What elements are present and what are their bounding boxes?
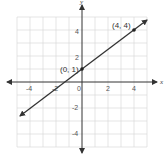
x-axis-label: x — [159, 78, 164, 86]
y-tick-label: 4 — [75, 28, 79, 35]
y-axis-label: y — [79, 0, 84, 6]
coordinate-plane: x y -4 -2 0 2 4 4 2 -2 -4 (0, 1) (4, 4) — [0, 0, 165, 155]
point-label-4-4: (4, 4) — [112, 21, 131, 30]
x-tick-label: -4 — [26, 85, 32, 92]
y-tick-label: -4 — [72, 130, 78, 137]
x-tick-label: 4 — [132, 85, 136, 92]
origin-label: 0 — [77, 85, 81, 92]
point-4-4 — [132, 28, 136, 32]
y-tick-label: 2 — [75, 54, 79, 61]
axes — [7, 5, 157, 153]
x-tick-label: 2 — [106, 85, 110, 92]
point-label-0-1: (0, 1) — [60, 65, 79, 74]
point-0-1 — [80, 67, 84, 71]
y-tick-label: -2 — [72, 104, 78, 111]
